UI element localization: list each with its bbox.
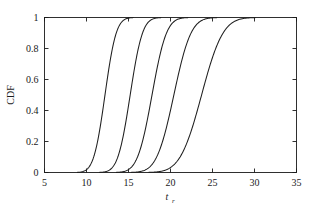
y-tick-label: 0.6 [26, 74, 39, 85]
y-tick-label: 0.4 [26, 105, 39, 116]
x-axis-title-base: t [166, 191, 169, 202]
figure-background [0, 0, 314, 215]
y-axis-title: CDF [5, 85, 16, 105]
x-tick-label: 30 [250, 177, 260, 188]
x-tick-label: 35 [292, 177, 302, 188]
cdf-chart: 5101520253035 00.20.40.60.81 t r CDF [0, 0, 314, 215]
x-tick-label: 5 [42, 177, 47, 188]
x-axis-title-subscript: r [172, 197, 175, 205]
y-axis-title-label: CDF [5, 85, 16, 105]
y-tick-label: 0.8 [26, 43, 39, 54]
x-tick-label: 20 [166, 177, 176, 188]
x-tick-label: 15 [124, 177, 134, 188]
x-tick-label: 25 [208, 177, 218, 188]
y-tick-label: 1 [34, 12, 39, 23]
y-tick-label: 0 [34, 167, 39, 178]
y-tick-label: 0.2 [26, 136, 39, 147]
x-tick-label: 10 [82, 177, 92, 188]
